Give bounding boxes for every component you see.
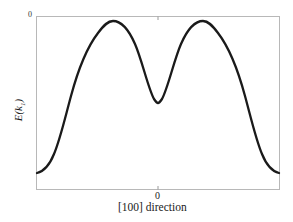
y-axis-label-subscript: 1 — [19, 103, 27, 107]
y-tick-label: 0 — [28, 11, 32, 19]
y-axis-label-close: ) — [12, 99, 24, 103]
x-axis-label: [100] direction — [118, 202, 187, 214]
y-axis-label: E(k1) — [13, 99, 27, 121]
energy-curve — [37, 21, 279, 173]
x-tick-label: 0 — [155, 191, 160, 201]
chart-plot — [0, 0, 293, 222]
y-axis-label-main: E(k — [12, 106, 24, 121]
